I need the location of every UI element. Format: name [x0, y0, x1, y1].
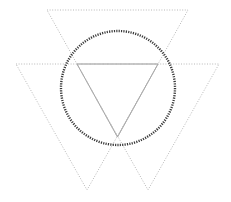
diagram-canvas — [0, 0, 231, 202]
inner-solid-triangle — [77, 64, 158, 137]
geometric-diagram — [0, 0, 231, 202]
dotted-circle — [61, 31, 175, 145]
